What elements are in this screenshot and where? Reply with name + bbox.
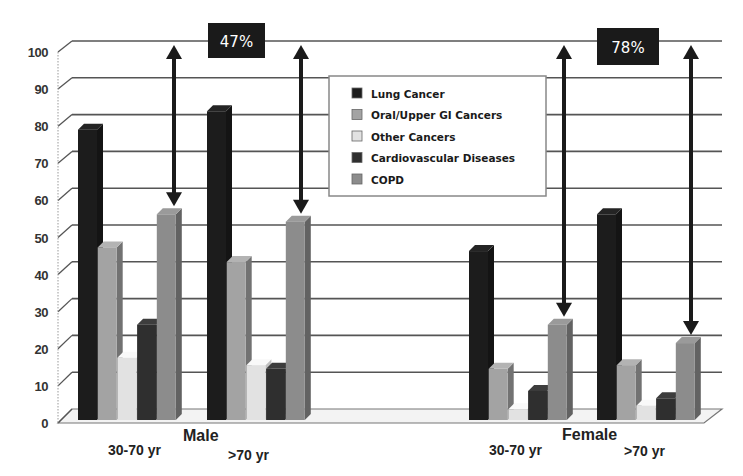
legend-item: Cardiovascular Diseases [352, 152, 515, 164]
callout-female: 78% [597, 28, 659, 65]
x-label-female-70plus: >70 yr [624, 443, 665, 459]
bar-chart: 0102030405060708090100 Lung CancerOral/U… [0, 0, 743, 476]
legend-swatch [352, 131, 362, 141]
callout-male-text: 47% [220, 33, 253, 51]
x-group-female: Female [562, 426, 617, 443]
legend-label: Lung Cancer [371, 88, 445, 100]
y-tick-label: 90 [35, 82, 49, 97]
y-tick-label: 50 [35, 231, 49, 246]
legend-swatch [352, 110, 362, 120]
grid-connector [58, 225, 72, 238]
legend-swatch [352, 174, 362, 184]
legend-item: COPD [352, 174, 404, 186]
y-tick-label: 30 [35, 305, 49, 320]
x-label-male-70plus: >70 yr [228, 447, 269, 463]
grid-connector [58, 188, 72, 200]
legend-swatch [352, 153, 362, 163]
x-label-male-30-70: 30-70 yr [108, 442, 161, 458]
legend-label: COPD [371, 174, 404, 186]
y-tick-label: 40 [35, 268, 49, 283]
bar [676, 337, 701, 420]
y-tick-label: 70 [35, 156, 49, 171]
grid-connector [58, 78, 72, 89]
grid-connector [58, 335, 72, 348]
double-arrow-icon [166, 45, 182, 206]
grid-connector [58, 115, 72, 127]
grid-connector [58, 372, 72, 386]
legend-label: Other Cancers [371, 131, 455, 143]
grid-connector [58, 262, 72, 275]
y-axis-ticks: 0102030405060708090100 [28, 45, 48, 431]
y-tick-label: 20 [35, 342, 49, 357]
bar [286, 216, 311, 420]
double-arrow-icon [683, 45, 699, 335]
callout-male: 47% [208, 23, 265, 58]
y-tick-label: 0 [41, 416, 48, 431]
bar [548, 319, 573, 420]
legend-swatch [352, 88, 362, 98]
grid-connector [58, 41, 72, 52]
y-tick-label: 80 [35, 119, 49, 134]
double-arrow-icon [556, 45, 572, 317]
grid-connector [58, 151, 72, 163]
legend: Lung CancerOral/Upper GI CancersOther Ca… [329, 76, 546, 196]
bar [157, 208, 182, 420]
callout-female-text: 78% [611, 39, 644, 57]
x-group-male: Male [183, 427, 219, 444]
legend-label: Cardiovascular Diseases [371, 152, 515, 164]
y-tick-label: 10 [35, 379, 49, 394]
grid-connector [58, 299, 72, 312]
legend-label: Oral/Upper GI Cancers [371, 109, 502, 121]
y-tick-label: 100 [28, 45, 48, 60]
y-tick-label: 60 [35, 193, 49, 208]
x-label-female-30-70: 30-70 yr [489, 442, 542, 458]
legend-item: Oral/Upper GI Cancers [352, 109, 502, 121]
